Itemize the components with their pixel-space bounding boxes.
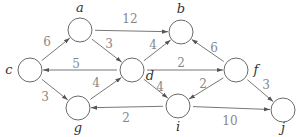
- node-label-a: a: [76, 0, 84, 15]
- edge-weight-label: 6: [43, 35, 51, 49]
- node-label-g: g: [74, 120, 82, 135]
- edge-weight-label: 5: [72, 57, 80, 71]
- edge-i-to-j: [193, 107, 270, 110]
- node-d: [120, 58, 144, 82]
- edge-weight-label: 10: [222, 114, 237, 128]
- node-f: [224, 58, 248, 82]
- node-label-f: f: [253, 62, 261, 77]
- edge-weight-label: 2: [199, 77, 207, 91]
- edge-d-to-b: [144, 40, 171, 61]
- edge-weight-label: 4: [149, 38, 157, 52]
- edge-weight-label: 2: [177, 56, 185, 70]
- node-label-i: i: [176, 119, 180, 134]
- node-label-b: b: [177, 1, 185, 16]
- node-c: [18, 58, 42, 82]
- node-j: [271, 98, 295, 122]
- edge-weight-label: 3: [41, 90, 49, 104]
- edge-i-to-g: [91, 106, 163, 107]
- node-label-j: j: [278, 120, 285, 135]
- node-a: [68, 18, 92, 42]
- edge-weight-label: 2: [122, 111, 130, 125]
- edge-weight-label: 4: [156, 80, 164, 94]
- weighted-directed-graph: 6123546234422103abcdfgij: [0, 0, 301, 137]
- edge-weight-label: 4: [92, 76, 100, 90]
- node-b: [169, 20, 193, 44]
- edge-a-to-b: [95, 30, 168, 31]
- edge-weight-label: 3: [105, 37, 113, 51]
- node-label-d: d: [146, 68, 154, 83]
- edge-weight-label: 3: [262, 78, 270, 92]
- node-i: [166, 94, 190, 118]
- node-label-c: c: [5, 62, 13, 77]
- node-g: [66, 96, 90, 120]
- edge-weight-label: 6: [210, 41, 218, 55]
- edge-f-to-b: [192, 39, 224, 61]
- edge-weight-label: 12: [122, 12, 137, 26]
